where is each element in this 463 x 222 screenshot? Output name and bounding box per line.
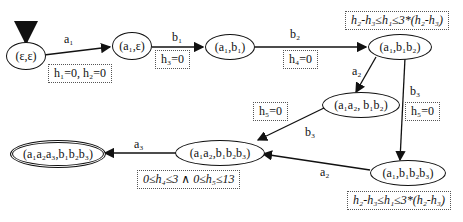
edge-label-a2-lower: a₂	[320, 165, 330, 180]
edge-label-b3-right: b₃	[410, 84, 420, 99]
state-n4: (a₁a₂, b₁b₂)	[322, 92, 400, 118]
state-n5: (a₁,b₁b₂b₃)	[370, 160, 446, 186]
constraint-c4: h₂-h₃≤h₁≤3*(h₂-h₃)	[345, 11, 449, 30]
edge-label-a2-upper: a₂	[352, 64, 362, 79]
edge-label-b2: b₂	[290, 27, 300, 42]
constraint-c8: h₂-h₃≤h₁≤3*(h₂-h₃)	[347, 191, 451, 210]
constraint-c2: h₃=0	[155, 50, 190, 69]
constraint-c5: h₅=0	[253, 102, 288, 121]
state-n3: (a₁,b₁b₂)	[368, 34, 432, 60]
final-state-n7: (a₁a₂a₃,b₁b₂b₃)	[10, 140, 106, 168]
state-n0: (ε,ε)	[6, 42, 46, 70]
edge-label-b1: b₁	[172, 30, 182, 45]
edge-label-b3-mid: b₃	[305, 125, 315, 140]
edge-label-a3: a₃	[134, 137, 144, 152]
state-n1: (a₁,ε)	[112, 32, 152, 60]
constraint-c7: 0≤h₄≤3 ∧ 0≤h₅≤13	[137, 170, 240, 189]
state-n2: (a₁,b₁)	[205, 34, 255, 60]
constraint-c3: h₄=0	[283, 50, 318, 69]
edge-label-a1: a₁	[64, 32, 74, 47]
state-n6: (a₁a₂,b₁b₂b₃)	[175, 140, 265, 166]
constraint-c6: h₅=0	[405, 102, 440, 121]
constraint-c1: h₁=0, h₂=0	[48, 64, 112, 83]
